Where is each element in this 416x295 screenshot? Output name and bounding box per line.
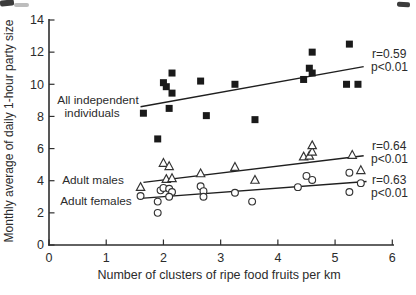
marker-filled-square [154, 135, 161, 142]
series-label: individuals [64, 106, 119, 120]
marker-open-triangle [251, 175, 259, 183]
scatter-plot: 012345602468101214Number of clusters of … [0, 0, 416, 295]
x-tick-label: 5 [332, 251, 339, 265]
marker-open-triangle [308, 141, 316, 149]
marker-filled-square [169, 70, 176, 77]
x-tick-label: 4 [274, 251, 281, 265]
marker-open-circle [309, 177, 316, 184]
marker-open-triangle [196, 169, 204, 177]
stats-annotation: r=0.63 [372, 173, 407, 187]
stats-annotation: r=0.64 [372, 139, 407, 153]
x-axis-title: Number of clusters of ripe food fruits p… [97, 268, 340, 282]
marker-open-triangle [348, 151, 356, 159]
y-tick-label: 14 [30, 13, 44, 27]
marker-filled-square [346, 41, 353, 48]
scatter-figure: 012345602468101214Number of clusters of … [0, 0, 416, 295]
marker-open-circle [346, 189, 353, 196]
marker-open-circle [232, 189, 239, 196]
marker-filled-square [203, 112, 210, 119]
x-tick-label: 0 [46, 251, 53, 265]
marker-filled-square [163, 83, 170, 90]
stats-annotation: p<0.01 [371, 60, 408, 74]
marker-open-circle [294, 184, 301, 191]
series-label: Adult females [60, 194, 132, 208]
x-tick-label: 1 [103, 251, 110, 265]
marker-filled-square [309, 70, 316, 77]
stats-annotation: p<0.01 [371, 152, 408, 166]
marker-filled-square [354, 81, 361, 88]
marker-open-circle [137, 193, 144, 200]
stats-annotation: p<0.01 [371, 186, 408, 200]
marker-filled-square [300, 76, 307, 83]
series-label: Adult males [62, 173, 124, 187]
marker-filled-square [197, 78, 204, 85]
marker-open-triangle [357, 166, 365, 174]
y-tick-label: 12 [30, 45, 44, 59]
marker-open-circle [357, 180, 364, 187]
x-tick-label: 3 [217, 251, 224, 265]
y-tick-label: 8 [37, 110, 44, 124]
series-label: All independent [57, 93, 139, 107]
marker-filled-square [140, 110, 147, 117]
marker-filled-square [309, 49, 316, 56]
marker-open-circle [154, 198, 161, 205]
y-tick-label: 4 [37, 174, 44, 188]
x-tick-label: 2 [160, 251, 167, 265]
marker-open-circle [249, 198, 256, 205]
marker-open-triangle [136, 183, 144, 191]
y-tick-label: 0 [37, 238, 44, 252]
marker-open-triangle [168, 174, 176, 182]
x-tick-label: 6 [389, 251, 396, 265]
marker-filled-square [251, 116, 258, 123]
y-axis-title: Monthly average of daily 1-hour party si… [2, 19, 16, 242]
marker-open-triangle [159, 159, 167, 167]
y-tick-label: 2 [37, 206, 44, 220]
marker-open-circle [200, 193, 207, 200]
marker-open-circle [166, 193, 173, 200]
marker-open-triangle [231, 163, 239, 171]
marker-filled-square [231, 81, 238, 88]
marker-filled-square [343, 81, 350, 88]
marker-filled-square [166, 105, 173, 112]
marker-open-circle [346, 169, 353, 176]
y-tick-label: 10 [30, 78, 44, 92]
marker-open-circle [154, 209, 161, 216]
y-tick-label: 6 [37, 142, 44, 156]
marker-filled-square [169, 90, 176, 97]
